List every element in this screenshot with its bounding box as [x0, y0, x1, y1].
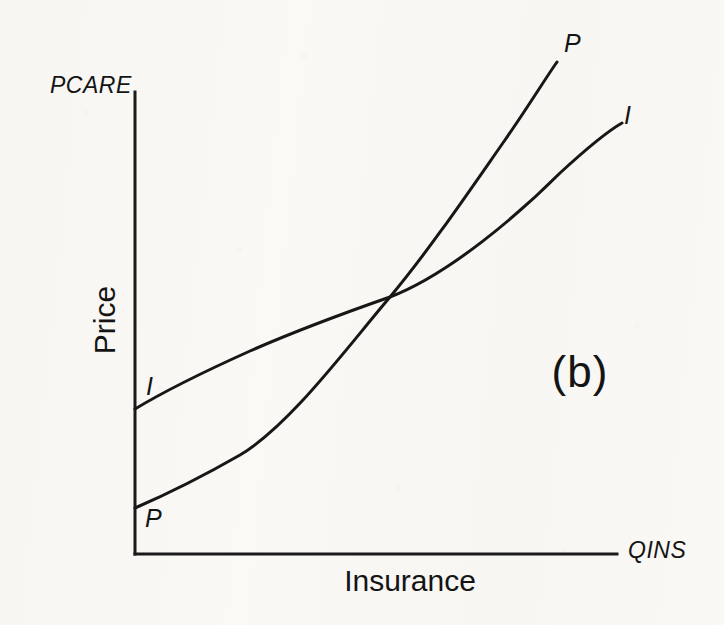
- panel-designation-label: (b): [552, 350, 609, 394]
- curve-label-p-start: P: [145, 506, 162, 531]
- curve-label-p-end: P: [564, 31, 581, 56]
- curve-label-i-end: I: [624, 103, 631, 128]
- figure-panel-b: PCARE QINS Price Insurance I I P P (b): [0, 0, 724, 625]
- x-axis-title: Insurance: [344, 566, 476, 596]
- y-axis-variable-label: PCARE: [50, 74, 132, 97]
- curve-insurance-demand: [135, 123, 622, 409]
- x-axis-variable-label: QINS: [628, 539, 686, 562]
- curve-price-of-care: [135, 62, 557, 508]
- y-axis-title: Price: [90, 286, 120, 354]
- curve-label-i-start: I: [146, 374, 153, 399]
